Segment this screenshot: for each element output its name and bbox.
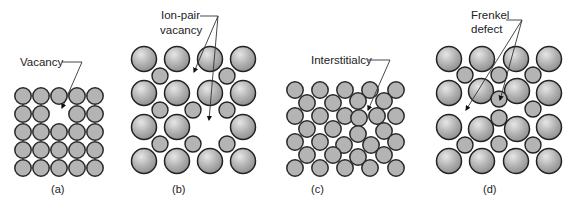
panel-a-lattice (15, 88, 103, 176)
ion-pair-label-line2: vacancy (160, 24, 202, 36)
panel-a-vacancy: Vacancy (a) (15, 56, 103, 195)
crystal-defects-figure: Vacancy (a) Ion-pair vacancy (b) (0, 0, 572, 201)
panel-d-small-ions (457, 67, 541, 153)
vacancy-label: Vacancy (20, 56, 64, 68)
panel-b-small-ions (152, 68, 235, 152)
panel-d-caption: (d) (483, 183, 496, 195)
panel-b-caption: (b) (172, 183, 185, 195)
panel-c-caption: (c) (311, 183, 324, 195)
panel-c-lattice (287, 82, 404, 176)
panel-d-frenkel-defect: Frenkel defect (d) (437, 9, 562, 195)
ion-pair-label-line1: Ion-pair (161, 9, 200, 21)
panel-a-caption: (a) (51, 183, 64, 195)
frenkel-label-line2: defect (471, 23, 503, 35)
panel-b-ion-pair-vacancy: Ion-pair vacancy (b) (132, 9, 256, 195)
frenkel-interstitial-ion (491, 91, 507, 107)
interstitialcy-label: Interstitialcy (311, 54, 372, 66)
frenkel-label-line1: Frenkel (471, 9, 509, 21)
panel-c-interstitialcy: Interstitialcy (c) (287, 54, 404, 195)
